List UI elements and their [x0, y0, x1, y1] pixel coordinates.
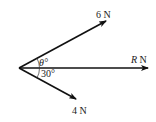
- label-6n: 6 N: [96, 9, 111, 20]
- label-r-unit-n: N: [140, 54, 147, 65]
- force-diagram: 6 N R N 4 N θ° 30°: [0, 0, 156, 122]
- label-rn: R N: [130, 54, 147, 65]
- angle-label-theta: θ°: [39, 57, 48, 68]
- label-4n: 4 N: [72, 105, 87, 116]
- angle-arc-30: [37, 68, 40, 78]
- force-vector-6n: [19, 21, 106, 68]
- angle-label-30: 30°: [41, 68, 55, 79]
- label-r-symbol: R: [130, 54, 137, 65]
